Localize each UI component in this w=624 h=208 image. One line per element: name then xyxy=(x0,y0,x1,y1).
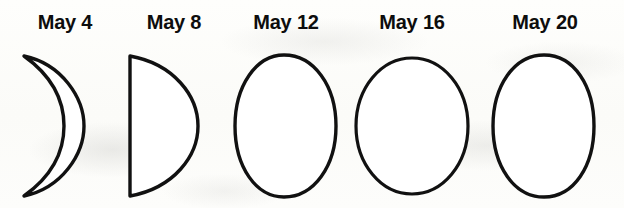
gibbous-path xyxy=(493,55,594,197)
phase-cell-4: May 16 xyxy=(348,0,476,208)
phase-label-2: May 8 xyxy=(118,10,230,34)
half-disc-path xyxy=(130,56,198,196)
phase-cell-5: May 20 xyxy=(480,0,610,208)
phase-cell-1: May 4 xyxy=(0,0,130,208)
moon-waxing-crescent-icon xyxy=(0,50,130,202)
phase-label-5: May 20 xyxy=(480,10,610,34)
phase-label-1: May 4 xyxy=(0,10,130,34)
moon-first-quarter-icon xyxy=(118,50,230,202)
phase-label-3: May 12 xyxy=(222,10,350,34)
phase-label-4: May 16 xyxy=(348,10,476,34)
gibbous-path xyxy=(235,55,336,197)
crescent-path xyxy=(24,56,84,196)
phase-cell-3: May 12 xyxy=(222,0,350,208)
moon-waxing-gibbous-icon xyxy=(222,50,350,202)
moon-full-icon xyxy=(348,50,476,202)
phase-cell-2: May 8 xyxy=(118,0,230,208)
moon-waning-gibbous-icon xyxy=(480,50,610,202)
full-disc-path xyxy=(356,58,468,194)
moon-phase-diagram: May 4 May 8 May 12 May 16 xyxy=(0,0,624,208)
